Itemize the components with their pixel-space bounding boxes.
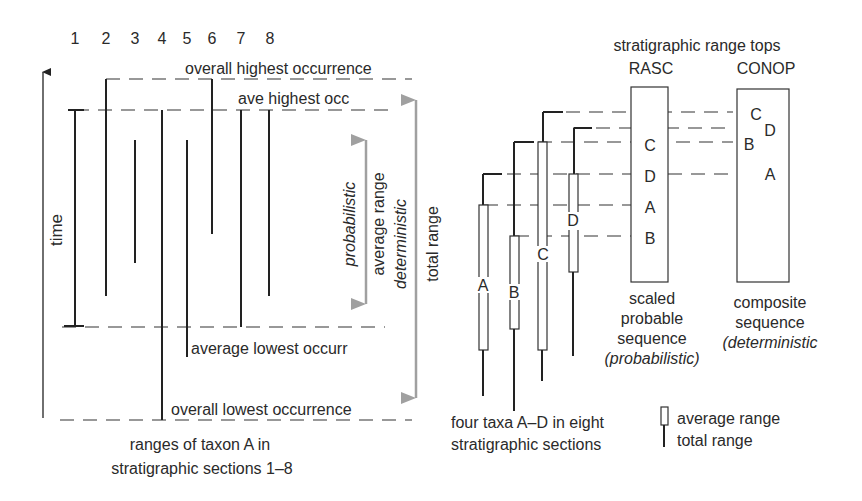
rasc-caption: scaled probable sequence (probabilistic) bbox=[604, 290, 699, 367]
legend: average range total range bbox=[661, 407, 780, 449]
deterministic-label: deterministic bbox=[392, 199, 409, 289]
section-numbers: 1 2 3 4 5 6 7 8 bbox=[71, 30, 275, 47]
taxa-caption-line2: stratigraphic sections bbox=[451, 436, 601, 453]
section-number: 7 bbox=[237, 30, 246, 47]
taxon-d-column: D bbox=[566, 128, 592, 356]
probabilistic-label: probabilistic bbox=[341, 182, 358, 267]
section-number: 1 bbox=[71, 30, 80, 47]
average-range-label: average range bbox=[370, 172, 387, 275]
taxon-label: A bbox=[478, 277, 489, 294]
rasc-caption-line: sequence bbox=[617, 330, 686, 347]
rasc-caption-line: probable bbox=[621, 310, 683, 327]
rasc-caption-line: (probabilistic) bbox=[604, 350, 699, 367]
average-range-bar bbox=[510, 236, 519, 329]
taxon-b-column: B bbox=[506, 142, 534, 411]
section-number: 3 bbox=[131, 30, 140, 47]
legend-average-range: average range bbox=[677, 410, 780, 427]
conop-caption-line: sequence bbox=[735, 314, 804, 331]
rasc-caption-line: scaled bbox=[629, 290, 675, 307]
conop-item: B bbox=[744, 136, 755, 153]
conop-caption-line: composite bbox=[734, 294, 807, 311]
total-range-label: total range bbox=[424, 206, 441, 282]
taxon-a-column: A bbox=[476, 174, 502, 396]
overall-highest-label: overall highest occurrence bbox=[185, 60, 372, 77]
range-tops-title: stratigraphic range tops bbox=[613, 37, 780, 54]
ave-highest-label: ave highest occ bbox=[238, 90, 349, 107]
section-number: 4 bbox=[158, 30, 167, 47]
taxon-label: C bbox=[537, 246, 549, 263]
stratigraphic-range-diagram: 1 2 3 4 5 6 7 8 time bbox=[0, 0, 862, 501]
left-panel: 1 2 3 4 5 6 7 8 time bbox=[43, 30, 441, 477]
section-number: 2 bbox=[102, 30, 111, 47]
rasc-item: C bbox=[644, 137, 656, 154]
rasc-item: D bbox=[644, 168, 656, 185]
taxon-a-ranges bbox=[64, 79, 269, 420]
time-axis-label: time bbox=[47, 214, 66, 246]
conop-item: A bbox=[765, 166, 776, 183]
section-number: 5 bbox=[183, 30, 192, 47]
conop-item: D bbox=[764, 122, 776, 139]
left-caption-line1: ranges of taxon A in bbox=[130, 436, 271, 453]
right-panel: stratigraphic range tops RASC CONOP A bbox=[451, 37, 818, 453]
average-lowest-label: average lowest occurr bbox=[191, 340, 348, 357]
range-top-lines bbox=[484, 112, 733, 236]
taxon-label: B bbox=[509, 284, 520, 301]
average-range-legend-icon bbox=[661, 407, 668, 425]
conop-caption: composite sequence (deterministic bbox=[722, 294, 817, 351]
taxon-c-column: C bbox=[535, 112, 563, 381]
legend-total-range: total range bbox=[677, 432, 753, 449]
taxa-caption-line1: four taxa A–D in eight bbox=[451, 414, 605, 431]
conop-sequence-box bbox=[737, 89, 789, 282]
left-caption-line2: stratigraphic sections 1–8 bbox=[111, 460, 293, 477]
conop-caption-line: (deterministic bbox=[722, 334, 817, 351]
section-number: 6 bbox=[208, 30, 217, 47]
rasc-item: B bbox=[645, 230, 656, 247]
rasc-label: RASC bbox=[629, 60, 673, 77]
section-number: 8 bbox=[266, 30, 275, 47]
conop-item: C bbox=[750, 106, 762, 123]
taxon-label: D bbox=[567, 212, 579, 229]
conop-label: CONOP bbox=[737, 60, 796, 77]
overall-lowest-label: overall lowest occurrence bbox=[171, 401, 352, 418]
rasc-item: A bbox=[645, 199, 656, 216]
